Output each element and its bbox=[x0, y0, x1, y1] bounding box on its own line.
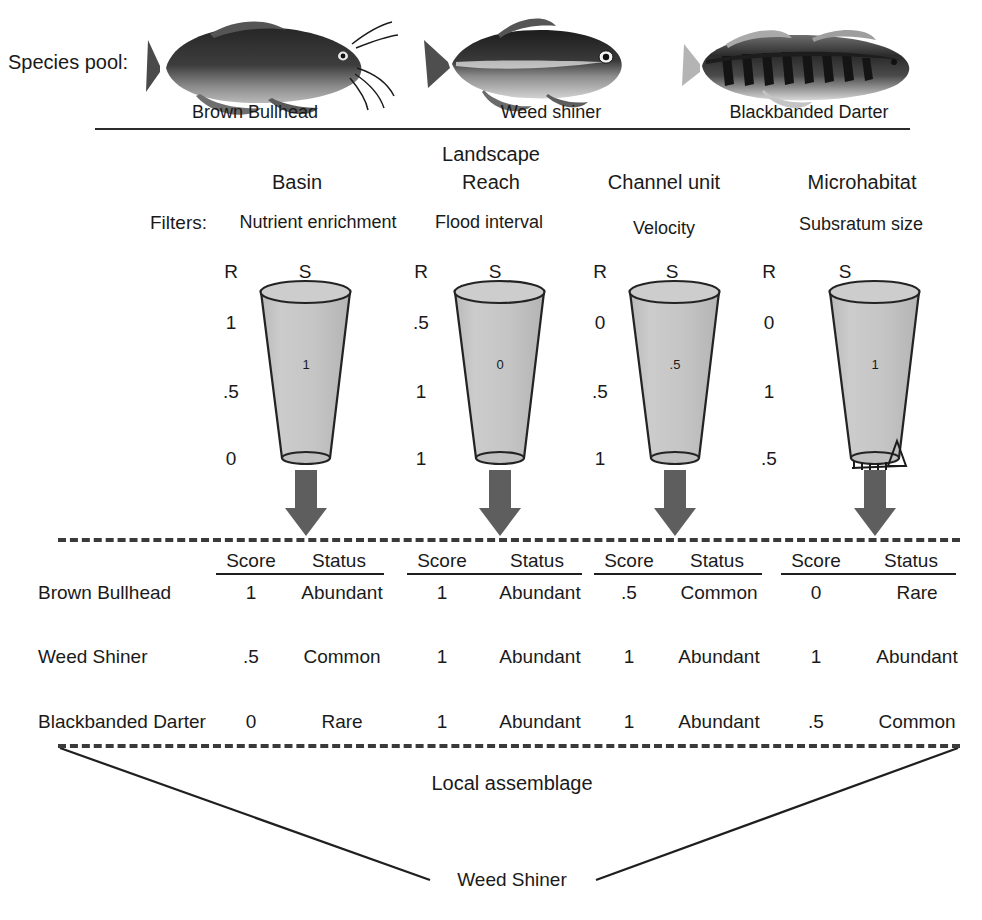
cell-status-r0-c1: Abundant bbox=[499, 583, 580, 602]
cell-status-r1-c2: Abundant bbox=[678, 647, 759, 666]
cell-score-r0-c3: 0 bbox=[811, 583, 822, 602]
convergence-lines bbox=[60, 748, 958, 880]
landscape-title: Landscape bbox=[442, 144, 540, 164]
scale-r-header-channel-unit: R bbox=[593, 262, 607, 281]
filter-label-microhabitat: Subsratum size bbox=[799, 215, 923, 233]
funnel-value-channel-unit: .5 bbox=[670, 358, 681, 371]
column-header-status-reach: Status bbox=[510, 551, 564, 570]
arrow-down-channel-unit bbox=[654, 470, 696, 536]
column-header-score-microhabitat: Score bbox=[791, 551, 841, 570]
scale-value-basin-2: 0 bbox=[226, 449, 237, 468]
table-row-label-brown-bullhead: Brown Bullhead bbox=[38, 583, 171, 602]
cell-score-r0-c0: 1 bbox=[246, 583, 257, 602]
arrow-down-reach bbox=[479, 470, 521, 536]
cell-score-r2-c0: 0 bbox=[246, 712, 257, 731]
tier-label-basin: Basin bbox=[272, 172, 322, 192]
column-header-score-basin: Score bbox=[226, 551, 276, 570]
cell-status-r2-c1: Abundant bbox=[499, 712, 580, 731]
scale-value-channel-unit-1: .5 bbox=[592, 382, 608, 401]
catfish-icon bbox=[146, 21, 398, 114]
outcome-label: Weed Shiner bbox=[457, 870, 567, 889]
funnel-value-reach: 0 bbox=[496, 358, 503, 371]
assemblage-divider-top bbox=[58, 538, 960, 542]
scale-value-reach-0: .5 bbox=[413, 313, 429, 332]
species-pool-divider bbox=[95, 128, 910, 130]
scale-value-channel-unit-0: 0 bbox=[595, 313, 606, 332]
scale-s-header-channel-unit: S bbox=[666, 262, 679, 281]
filter-label-channel-unit: Velocity bbox=[633, 219, 695, 237]
minnow-icon bbox=[424, 18, 622, 111]
table-row-label-weed-shiner: Weed Shiner bbox=[38, 647, 148, 666]
scale-r-header-reach: R bbox=[414, 262, 428, 281]
funnel-channel-unit bbox=[630, 281, 720, 464]
funnel-value-basin: 1 bbox=[302, 358, 309, 371]
column-rule-reach bbox=[407, 573, 582, 575]
column-rule-microhabitat bbox=[781, 573, 956, 575]
scale-value-microhabitat-0: 0 bbox=[764, 313, 775, 332]
scale-value-channel-unit-2: 1 bbox=[595, 449, 606, 468]
scale-value-basin-0: 1 bbox=[226, 313, 237, 332]
cell-score-r2-c2: 1 bbox=[624, 712, 635, 731]
column-header-score-reach: Score bbox=[417, 551, 467, 570]
sieve-icon bbox=[852, 441, 906, 471]
arrow-down-microhabitat bbox=[854, 470, 896, 536]
scale-s-header-reach: S bbox=[489, 262, 502, 281]
tier-label-reach: Reach bbox=[462, 172, 520, 192]
cell-status-r2-c0: Rare bbox=[321, 712, 362, 731]
arrow-down-basin bbox=[285, 470, 327, 536]
cell-status-r1-c1: Abundant bbox=[499, 647, 580, 666]
cell-status-r0-c2: Common bbox=[680, 583, 757, 602]
column-header-status-microhabitat: Status bbox=[884, 551, 938, 570]
cell-score-r1-c3: 1 bbox=[811, 647, 822, 666]
cell-score-r1-c0: .5 bbox=[243, 647, 259, 666]
tier-label-microhabitat: Microhabitat bbox=[808, 172, 917, 192]
column-rule-basin bbox=[216, 573, 384, 575]
fish-caption-weed-shiner: Weed shiner bbox=[501, 103, 602, 121]
scale-s-header-microhabitat: S bbox=[839, 262, 852, 281]
local-assemblage-label: Local assemblage bbox=[431, 773, 592, 793]
scale-r-header-basin: R bbox=[224, 262, 238, 281]
assemblage-divider-bottom bbox=[58, 744, 960, 748]
fish-caption-blackbanded-darter: Blackbanded Darter bbox=[729, 103, 888, 121]
column-header-status-basin: Status bbox=[312, 551, 366, 570]
column-header-score-channel-unit: Score bbox=[604, 551, 654, 570]
filter-label-basin: Nutrient enrichment bbox=[239, 213, 396, 231]
cell-score-r2-c1: 1 bbox=[437, 712, 448, 731]
column-rule-channel-unit bbox=[594, 573, 762, 575]
table-row-label-blackbanded-darter: Blackbanded Darter bbox=[38, 712, 206, 731]
cell-status-r2-c3: Common bbox=[878, 712, 955, 731]
cell-score-r1-c1: 1 bbox=[437, 647, 448, 666]
cell-status-r0-c0: Abundant bbox=[301, 583, 382, 602]
cell-score-r2-c3: .5 bbox=[808, 712, 824, 731]
column-header-status-channel-unit: Status bbox=[690, 551, 744, 570]
scale-value-reach-1: 1 bbox=[416, 382, 427, 401]
cell-score-r0-c1: 1 bbox=[437, 583, 448, 602]
cell-status-r0-c3: Rare bbox=[896, 583, 937, 602]
tier-label-channel-unit: Channel unit bbox=[608, 172, 720, 192]
funnel-basin bbox=[261, 281, 351, 464]
scale-value-microhabitat-2: .5 bbox=[761, 449, 777, 468]
scale-r-header-microhabitat: R bbox=[762, 262, 776, 281]
filter-label-reach: Flood interval bbox=[435, 213, 543, 231]
fish-caption-brown-bullhead: Brown Bullhead bbox=[192, 103, 318, 121]
species-pool-label: Species pool: bbox=[8, 52, 128, 72]
scale-value-microhabitat-1: 1 bbox=[764, 382, 775, 401]
scale-value-basin-1: .5 bbox=[223, 382, 239, 401]
filters-label: Filters: bbox=[150, 213, 207, 232]
funnel-microhabitat bbox=[830, 281, 920, 471]
funnel-reach bbox=[455, 281, 545, 464]
cell-status-r2-c2: Abundant bbox=[678, 712, 759, 731]
cell-status-r1-c0: Common bbox=[303, 647, 380, 666]
scale-s-header-basin: S bbox=[299, 262, 312, 281]
cell-status-r1-c3: Abundant bbox=[876, 647, 957, 666]
darter-icon bbox=[682, 30, 909, 108]
scale-value-reach-2: 1 bbox=[416, 449, 427, 468]
cell-score-r1-c2: 1 bbox=[624, 647, 635, 666]
funnel-value-microhabitat: 1 bbox=[871, 358, 878, 371]
cell-score-r0-c2: .5 bbox=[621, 583, 637, 602]
